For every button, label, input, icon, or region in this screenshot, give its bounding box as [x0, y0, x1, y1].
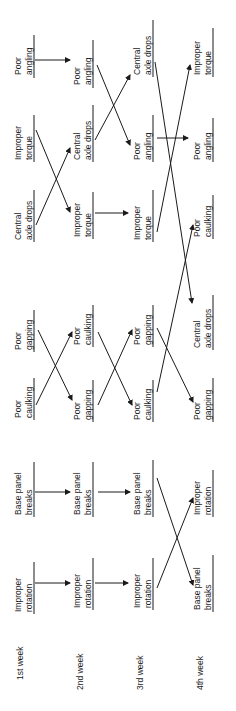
- w3-poor-caulking: Poorcaulking: [132, 380, 153, 422]
- arrows-w2-w3: [95, 65, 132, 583]
- w1-base-panel-breaks: Base panelbreaks: [13, 462, 34, 517]
- svg-text:gapping: gapping: [24, 319, 34, 350]
- week-label-3: 3rd week: [135, 655, 145, 690]
- arrows-w1-w2: [35, 60, 72, 583]
- svg-text:rotation: rotation: [203, 486, 213, 515]
- svg-text:angling: angling: [203, 132, 213, 160]
- w2-base-panel-breaks: Base panelbreaks: [72, 462, 93, 517]
- svg-text:axle drops: axle drops: [143, 36, 153, 75]
- svg-text:Improper: Improper: [13, 126, 23, 160]
- arrows-w3-w4: [155, 62, 193, 588]
- w4-poor-gapping: Poorgapping: [192, 378, 213, 422]
- svg-text:Poor: Poor: [13, 57, 23, 75]
- svg-text:torque: torque: [143, 216, 153, 240]
- w1-improper-torque: Impropertorque: [13, 115, 34, 162]
- svg-text:Poor: Poor: [13, 332, 23, 350]
- svg-text:caulking: caulking: [83, 314, 93, 345]
- svg-text:Poor: Poor: [72, 67, 82, 85]
- svg-text:breaks: breaks: [83, 489, 93, 515]
- svg-text:Poor: Poor: [13, 400, 23, 418]
- svg-text:Improper: Improper: [132, 574, 142, 608]
- svg-text:gapping: gapping: [143, 314, 153, 345]
- w4-poor-caulking: Poorcaulking: [192, 195, 213, 239]
- svg-text:Base panel: Base panel: [72, 472, 82, 515]
- week-3-column: Centralaxle drops Poorangling Improperto…: [132, 20, 153, 610]
- svg-text:angling: angling: [143, 132, 153, 160]
- w1-central-axle-drops: Centralaxle drops: [13, 190, 34, 242]
- week-labels: 1st week 2nd week 3rd week 4th week: [15, 646, 205, 690]
- svg-text:gapping: gapping: [203, 389, 213, 420]
- svg-text:Central: Central: [72, 132, 82, 160]
- svg-text:Poor: Poor: [72, 402, 82, 420]
- svg-text:caulking: caulking: [24, 387, 34, 418]
- week-2-column: Poorangling Centralaxle drops Improperto…: [72, 40, 93, 610]
- svg-text:breaks: breaks: [24, 489, 34, 515]
- svg-text:rotation: rotation: [83, 579, 93, 608]
- w2-improper-rotation: Improperrotation: [72, 558, 93, 610]
- svg-text:Improper: Improper: [192, 41, 202, 75]
- svg-text:torque: torque: [83, 213, 93, 237]
- svg-text:Central: Central: [192, 320, 202, 348]
- svg-text:Improper: Improper: [192, 481, 202, 515]
- svg-text:gapping: gapping: [83, 389, 93, 420]
- svg-text:Base panel: Base panel: [13, 472, 23, 515]
- ranking-diagram: 1st week 2nd week 3rd week 4th week Poor…: [0, 0, 236, 711]
- svg-text:torque: torque: [203, 51, 213, 75]
- svg-text:axle drops: axle drops: [203, 309, 213, 348]
- svg-text:breaks: breaks: [143, 489, 153, 515]
- svg-text:Improper: Improper: [72, 574, 82, 608]
- svg-text:rotation: rotation: [24, 583, 34, 612]
- week-label-4: 4th week: [195, 655, 205, 690]
- svg-text:Poor: Poor: [132, 402, 142, 420]
- svg-text:Poor: Poor: [72, 327, 82, 345]
- svg-text:axle drops: axle drops: [83, 121, 93, 160]
- w4-improper-torque: Impropertorque: [192, 28, 213, 77]
- svg-text:Poor: Poor: [192, 142, 202, 160]
- w2-poor-angling: Poorangling: [72, 40, 93, 88]
- svg-text:Poor: Poor: [192, 219, 202, 237]
- w1-poor-angling: Poorangling: [13, 35, 34, 78]
- week-4-column: Impropertorque Poorangling Poorcaulking …: [192, 28, 213, 612]
- w4-improper-rotation: Improperrotation: [192, 470, 213, 517]
- w1-poor-gapping: Poorgapping: [13, 310, 34, 352]
- svg-text:Poor: Poor: [132, 327, 142, 345]
- w3-poor-gapping: Poorgapping: [132, 305, 153, 347]
- w2-central-axle-drops: Centralaxle drops: [72, 105, 93, 162]
- svg-text:rotation: rotation: [143, 579, 153, 608]
- svg-text:Base panel: Base panel: [132, 472, 142, 515]
- w3-improper-rotation: Improperrotation: [132, 558, 153, 610]
- w3-improper-torque: Impropertorque: [132, 190, 153, 242]
- svg-text:caulking: caulking: [203, 206, 213, 237]
- svg-text:Improper: Improper: [13, 578, 23, 612]
- w2-poor-caulking: Poorcaulking: [72, 305, 93, 347]
- svg-text:caulking: caulking: [143, 389, 153, 420]
- svg-text:breaks: breaks: [203, 584, 213, 610]
- svg-text:Base panel: Base panel: [192, 567, 202, 610]
- svg-text:angling: angling: [24, 47, 34, 75]
- w3-poor-angling: Poorangling: [132, 115, 153, 162]
- w1-poor-caulking: Poorcaulking: [13, 378, 34, 420]
- w4-central-axle-drops: Centralaxle drops: [192, 295, 213, 350]
- svg-text:axle drops: axle drops: [24, 201, 34, 240]
- svg-text:Improper: Improper: [72, 203, 82, 237]
- svg-text:Central: Central: [13, 212, 23, 240]
- svg-text:Improper: Improper: [132, 206, 142, 240]
- w3-base-panel-breaks: Base panelbreaks: [132, 460, 153, 517]
- w4-base-panel-breaks: Base panelbreaks: [192, 555, 213, 612]
- svg-text:angling: angling: [83, 57, 93, 85]
- w4-poor-angling: Poorangling: [192, 118, 213, 162]
- svg-text:Poor: Poor: [192, 402, 202, 420]
- svg-text:Poor: Poor: [132, 142, 142, 160]
- week-1-column: Poorangling Impropertorque Centralaxle d…: [13, 35, 34, 614]
- w2-poor-gapping: Poorgapping: [72, 380, 93, 422]
- week-label-1: 1st week: [15, 646, 25, 680]
- w2-improper-torque: Impropertorque: [72, 192, 93, 239]
- w3-central-axle-drops: Centralaxle drops: [132, 20, 153, 77]
- svg-text:Central: Central: [132, 47, 142, 75]
- w1-improper-rotation: Improperrotation: [13, 562, 34, 614]
- week-label-2: 2nd week: [75, 653, 85, 690]
- svg-text:torque: torque: [24, 136, 34, 160]
